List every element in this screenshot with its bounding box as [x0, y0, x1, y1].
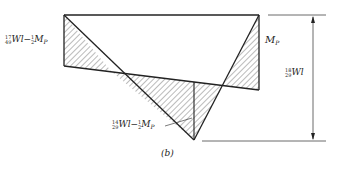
figure-caption: (b): [161, 148, 174, 158]
label-left: 1479Wl−12MP: [5, 34, 48, 45]
label-mp-right: MP: [265, 34, 279, 46]
arrow-up-icon: [311, 16, 315, 23]
hatched-region-left: [64, 15, 112, 72]
label-bottom: 1249Wl−12MP: [112, 119, 155, 130]
label-dimension: 1289Wl: [285, 67, 304, 78]
arrow-down-icon: [311, 133, 315, 140]
